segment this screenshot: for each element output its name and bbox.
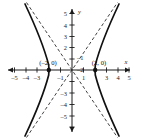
y-tick-label-neg1: –1	[76, 54, 83, 61]
y-tick-label-neg3: –3	[60, 90, 67, 97]
annotation-vertex-left: (–2, 0)	[39, 59, 57, 67]
y-tick-label-2: 2	[64, 44, 67, 51]
x-tick-label-neg5: –5	[10, 74, 17, 81]
x-axis-label: x	[124, 58, 128, 65]
y-tick-label-3: 3	[64, 33, 67, 40]
annotation-vertex-right: (2, 0)	[92, 59, 106, 67]
x-tick-label-neg1: –1	[56, 74, 63, 81]
y-tick-label-5: 5	[64, 10, 67, 17]
y-axis-label: y	[77, 8, 81, 15]
hyperbola-figure: –5 –4 –3 –1 1 3 4 5 5 4 3 2 –1 –2 –3 –4 …	[0, 0, 142, 139]
vertex-right-marker	[93, 68, 97, 72]
hyperbola-plot: –5 –4 –3 –1 1 3 4 5 5 4 3 2 –1 –2 –3 –4 …	[0, 0, 142, 139]
x-tick-label-3: 3	[105, 74, 108, 81]
x-tick-label-neg3: –3	[33, 74, 40, 81]
x-tick-label-5: 5	[127, 74, 130, 81]
x-tick-label-neg4: –4	[22, 74, 30, 81]
vertex-left-marker	[47, 68, 51, 72]
y-tick-label-neg5: –5	[60, 113, 67, 120]
y-tick-label-neg2: –2	[76, 66, 83, 73]
y-tick-label-neg4: –4	[60, 101, 68, 108]
x-tick-label-1: 1	[82, 74, 85, 81]
